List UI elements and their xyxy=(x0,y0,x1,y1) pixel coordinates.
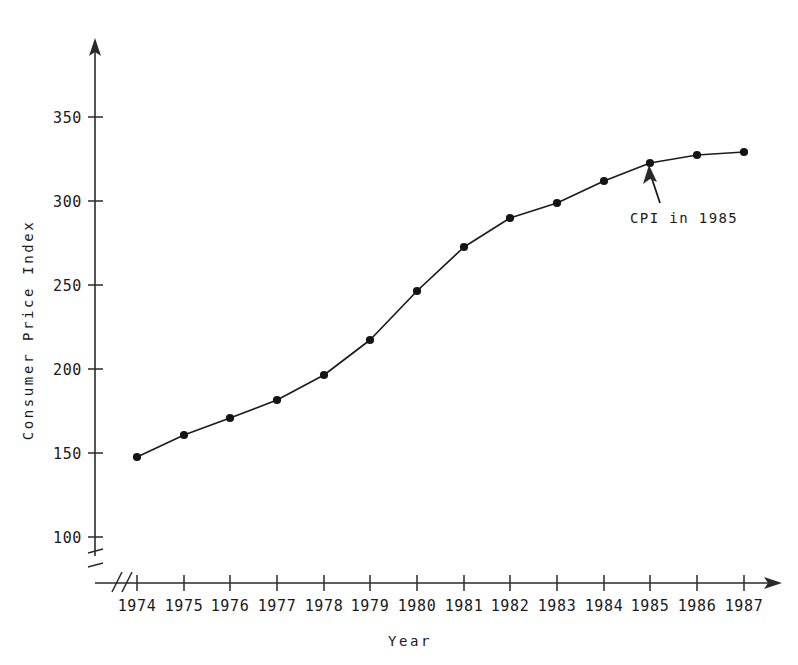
x-axis-group xyxy=(95,577,782,589)
data-point-1977 xyxy=(273,396,281,404)
cpi-line-chart-figure: 350 300 250 200 150 100 xyxy=(0,0,798,665)
data-point-1979 xyxy=(366,336,374,344)
x-tick-label-1977: 1977 xyxy=(258,597,297,615)
data-point-1978 xyxy=(320,371,328,379)
x-tick-label-1986: 1986 xyxy=(678,597,717,615)
data-point-1983 xyxy=(553,199,561,207)
y-tick-label-350: 350 xyxy=(53,109,82,127)
y-axis-break-mark-icon xyxy=(88,549,103,567)
x-tick-label-1982: 1982 xyxy=(491,597,530,615)
cpi-line-path xyxy=(137,152,744,457)
data-point-1976 xyxy=(226,414,234,422)
data-point-1981 xyxy=(460,243,468,251)
annotation-label: CPI in 1985 xyxy=(630,210,738,226)
x-tick-label-1983: 1983 xyxy=(538,597,577,615)
y-tick-label-300: 300 xyxy=(53,193,82,211)
x-tick-label-1975: 1975 xyxy=(165,597,204,615)
x-axis-title: Year xyxy=(388,633,432,649)
y-tick-label-200: 200 xyxy=(53,361,82,379)
data-point-1975 xyxy=(180,431,188,439)
y-tick-label-150: 150 xyxy=(53,445,82,463)
y-axis-group xyxy=(89,38,101,556)
x-axis-break-mark-icon xyxy=(112,572,132,592)
x-tick-label-1987: 1987 xyxy=(725,597,764,615)
x-tick-label-1984: 1984 xyxy=(585,597,624,615)
x-tick-label-1979: 1979 xyxy=(351,597,390,615)
chart-canvas: 350 300 250 200 150 100 xyxy=(0,0,798,665)
x-tick-label-1974: 1974 xyxy=(118,597,157,615)
x-tick-label-1985: 1985 xyxy=(631,597,670,615)
x-tick-label-1980: 1980 xyxy=(398,597,437,615)
data-point-1987 xyxy=(740,148,748,156)
x-tick-label-1976: 1976 xyxy=(211,597,250,615)
x-axis-tick-labels: 1974 1975 1976 1977 1978 1979 1980 1981 … xyxy=(118,597,764,615)
data-point-1984 xyxy=(600,177,608,185)
y-axis-tick-labels: 350 300 250 200 150 100 xyxy=(53,109,82,547)
data-point-1985 xyxy=(646,159,654,167)
y-tick-label-250: 250 xyxy=(53,277,82,295)
data-point-1982 xyxy=(506,214,514,222)
data-point-1980 xyxy=(413,287,421,295)
y-tick-label-100: 100 xyxy=(53,529,82,547)
annotation-arrowhead-icon xyxy=(643,165,657,184)
annotation-cpi-1985: CPI in 1985 xyxy=(630,165,738,226)
x-tick-label-1981: 1981 xyxy=(445,597,484,615)
data-series-cpi xyxy=(133,148,748,461)
data-point-1986 xyxy=(693,151,701,159)
y-axis-title: Consumer Price Index xyxy=(20,220,36,441)
data-point-1974 xyxy=(133,453,141,461)
x-tick-label-1978: 1978 xyxy=(305,597,344,615)
